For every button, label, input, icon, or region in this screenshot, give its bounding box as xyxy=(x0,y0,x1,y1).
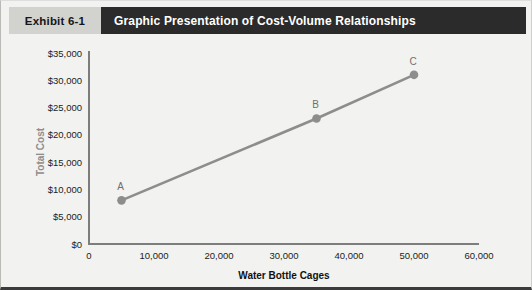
exhibit-title-bar: Graphic Presentation of Cost-Volume Rela… xyxy=(101,7,526,34)
y-tick-label: $15,000 xyxy=(48,157,82,168)
x-tick-label: 30,000 xyxy=(269,250,298,261)
y-tick-label: $30,000 xyxy=(48,75,82,86)
y-axis-tick-labels: $0$5,000$10,000$15,000$20,000$25,000$30,… xyxy=(48,48,82,250)
x-tick-label: 0 xyxy=(86,250,91,261)
y-tick-label: $5,000 xyxy=(53,211,82,222)
data-point-labels: ABC xyxy=(117,56,416,193)
cost-volume-line-chart: $0$5,000$10,000$15,000$20,000$25,000$30,… xyxy=(1,34,532,288)
y-tick-label: $0 xyxy=(71,239,82,250)
y-tick-label: $20,000 xyxy=(48,129,82,140)
x-tick-label: 10,000 xyxy=(139,250,168,261)
data-point xyxy=(410,71,419,80)
exhibit-frame: Exhibit 6-1 Graphic Presentation of Cost… xyxy=(0,0,532,290)
data-point xyxy=(117,196,126,205)
total-cost-line xyxy=(122,75,415,201)
x-tick-label: 40,000 xyxy=(334,250,363,261)
data-point xyxy=(312,114,321,123)
exhibit-number-text: Exhibit 6-1 xyxy=(25,15,85,27)
data-point-label: A xyxy=(117,181,124,192)
y-tick-label: $10,000 xyxy=(48,184,82,195)
y-tick-label: $25,000 xyxy=(48,102,82,113)
exhibit-number-badge: Exhibit 6-1 xyxy=(9,7,101,34)
x-tick-label: 60,000 xyxy=(464,250,493,261)
data-point-label: C xyxy=(409,56,416,67)
x-tick-label: 50,000 xyxy=(399,250,428,261)
x-axis-tick-labels: 010,00020,00030,00040,00050,00060,000 xyxy=(86,250,493,261)
exhibit-title-text: Graphic Presentation of Cost-Volume Rela… xyxy=(114,14,416,28)
chart-area: $0$5,000$10,000$15,000$20,000$25,000$30,… xyxy=(1,34,532,288)
data-point-label: B xyxy=(312,99,319,110)
x-tick-label: 20,000 xyxy=(204,250,233,261)
exhibit-header: Exhibit 6-1 Graphic Presentation of Cost… xyxy=(9,7,526,34)
chart-axes xyxy=(89,51,479,244)
y-axis-title: Total Cost xyxy=(35,127,46,176)
y-tick-label: $35,000 xyxy=(48,48,82,59)
x-axis-title: Water Bottle Cages xyxy=(238,270,330,281)
